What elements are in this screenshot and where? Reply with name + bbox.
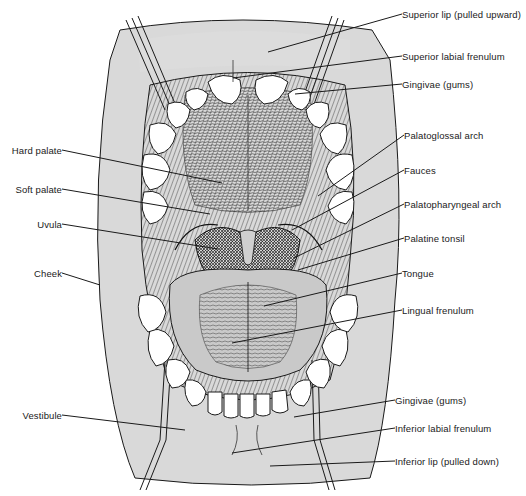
label-lingual-frenulum: Lingual frenulum: [402, 305, 474, 316]
label-palatine-tonsil: Palatine tonsil: [404, 233, 465, 244]
label-cheek: Cheek: [34, 268, 62, 279]
label-vestibule: Vestibule: [23, 410, 62, 421]
label-inferior-lip: Inferior lip (pulled down): [395, 456, 499, 467]
label-palatopharyngeal-arch: Palatopharyngeal arch: [404, 199, 501, 210]
label-tongue: Tongue: [402, 268, 434, 279]
label-palatoglossal-arch: Palatoglossal arch: [404, 130, 483, 141]
label-fauces: Fauces: [404, 165, 436, 176]
label-gingivae-lower: Gingivae (gums): [395, 395, 466, 406]
label-uvula: Uvula: [37, 219, 62, 230]
label-superior-labial-frenulum: Superior labial frenulum: [402, 51, 505, 62]
leader-cheek: [62, 273, 100, 285]
oral-cavity-diagram: Superior lip (pulled upward) Superior la…: [0, 0, 526, 496]
oral-cavity-illustration: [0, 0, 526, 496]
label-gingivae-upper: Gingivae (gums): [402, 79, 473, 90]
label-soft-palate: Soft palate: [15, 184, 62, 195]
label-hard-palate: Hard palate: [12, 145, 62, 156]
label-superior-lip: Superior lip (pulled upward): [402, 9, 521, 20]
label-inferior-labial-frenulum: Inferior labial frenulum: [395, 423, 491, 434]
